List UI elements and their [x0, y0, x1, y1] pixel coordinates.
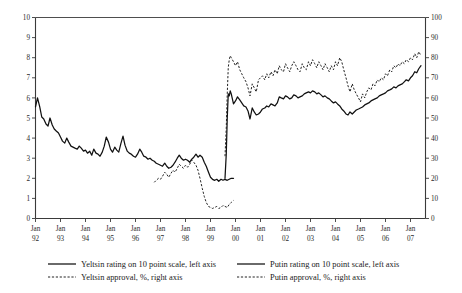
left-axis-tick-label: 10: [23, 14, 31, 22]
left-axis-tick-label: 4: [26, 135, 30, 143]
chart-background: [0, 0, 462, 293]
x-axis-tick-label-month: Jan: [106, 225, 116, 233]
left-axis-tick-label: 7: [26, 74, 30, 82]
x-axis-tick-label-month: Jan: [131, 225, 141, 233]
left-axis-tick-label: 9: [26, 34, 30, 42]
x-axis-tick-label-month: Jan: [231, 225, 241, 233]
x-axis-tick-label-month: Jan: [331, 225, 341, 233]
x-axis-tick-label-year: 01: [257, 235, 265, 243]
right-axis-tick-label: 100: [431, 14, 442, 22]
x-axis-tick-label-year: 04: [332, 235, 340, 243]
right-axis-tick-label: 70: [431, 74, 439, 82]
x-axis-tick-label-year: 95: [107, 235, 115, 243]
x-axis-tick-label-month: Jan: [31, 225, 41, 233]
x-axis-tick-label-year: 00: [232, 235, 240, 243]
x-axis-tick-label-year: 02: [282, 235, 290, 243]
x-axis-tick-label-year: 98: [182, 235, 190, 243]
right-axis-tick-label: 80: [431, 54, 439, 62]
x-axis-tick-label-month: Jan: [406, 225, 416, 233]
left-axis-tick-label: 1: [26, 195, 30, 203]
left-axis-tick-label: 3: [26, 155, 30, 163]
x-axis-tick-label-month: Jan: [56, 225, 66, 233]
right-axis-tick-label: 50: [431, 115, 439, 123]
left-axis-tick-label: 6: [26, 95, 30, 103]
chart-root: 012345678910 0102030405060708090100 Jan9…: [0, 0, 462, 293]
right-axis-tick-label: 30: [431, 155, 439, 163]
x-axis-tick-label-year: 96: [132, 235, 140, 243]
x-axis-tick-label-year: 94: [82, 235, 90, 243]
x-axis-tick-label-month: Jan: [281, 225, 291, 233]
right-axis-tick-label: 20: [431, 175, 439, 183]
x-axis-tick-label-month: Jan: [156, 225, 166, 233]
x-axis-tick-label-year: 07: [407, 235, 415, 243]
right-axis-tick-label: 10: [431, 195, 439, 203]
x-axis-tick-label-year: 92: [32, 235, 40, 243]
legend-label: Yeltsin rating on 10 point scale, left a…: [81, 260, 216, 269]
x-axis-tick-label-month: Jan: [306, 225, 316, 233]
x-axis-tick-label-month: Jan: [206, 225, 216, 233]
left-axis-tick-label: 5: [26, 115, 30, 123]
legend-label: Putin approval, %, right axis: [270, 273, 366, 282]
x-axis-tick-label-month: Jan: [256, 225, 266, 233]
x-axis-tick-label-month: Jan: [181, 225, 191, 233]
left-axis-tick-label: 8: [26, 54, 30, 62]
left-axis-tick-label: 0: [26, 215, 30, 223]
right-axis-tick-label: 40: [431, 135, 439, 143]
right-axis-tick-label: 60: [431, 95, 439, 103]
legend-label: Putin rating on 10 point scale, left axi…: [270, 260, 399, 269]
left-axis-tick-label: 2: [26, 175, 30, 183]
x-axis-tick-label-year: 97: [157, 235, 165, 243]
dual-axis-line-chart: 012345678910 0102030405060708090100 Jan9…: [0, 0, 462, 293]
right-axis-tick-label: 90: [431, 34, 439, 42]
x-axis-tick-label-year: 05: [357, 235, 365, 243]
x-axis-tick-label-month: Jan: [356, 225, 366, 233]
legend-label: Yeltsin approval, %, right axis: [81, 273, 183, 282]
x-axis-tick-label-year: 93: [57, 235, 65, 243]
x-axis-tick-label-year: 06: [382, 235, 390, 243]
x-axis-tick-label-month: Jan: [381, 225, 391, 233]
x-axis-tick-label-month: Jan: [81, 225, 91, 233]
x-axis-tick-label-year: 99: [207, 235, 215, 243]
x-axis-tick-label-year: 03: [307, 235, 315, 243]
right-axis-tick-label: 0: [431, 215, 435, 223]
